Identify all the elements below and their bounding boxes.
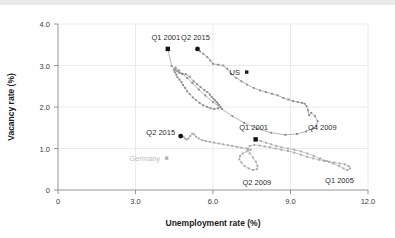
- data-point: [212, 101, 214, 103]
- data-point: [217, 107, 219, 109]
- data-point: [198, 138, 200, 140]
- data-point: [275, 148, 277, 150]
- data-point: [184, 138, 186, 140]
- data-point: [265, 142, 267, 144]
- data-point: [231, 145, 233, 147]
- data-point: [175, 74, 177, 76]
- data-point: [203, 89, 205, 91]
- data-point: [211, 96, 213, 98]
- series-germany: [180, 133, 351, 171]
- data-point: [189, 93, 191, 95]
- y-tick-label: 1.0: [40, 145, 50, 154]
- data-point: [293, 152, 295, 154]
- data-point: [209, 107, 211, 109]
- data-point: [306, 153, 308, 155]
- data-point: [226, 68, 228, 70]
- data-point: [178, 79, 180, 81]
- data-point: [175, 67, 177, 69]
- data-point: [184, 87, 186, 89]
- data-point: [198, 89, 200, 91]
- data-point: [191, 82, 193, 84]
- data-point: [249, 145, 251, 147]
- data-point: [306, 156, 308, 158]
- beveridge-curve-chart: Q1 2001Q2 2015Q4 2009Q1 2001Q2 2015Q2 20…: [0, 0, 395, 238]
- data-point: [287, 99, 289, 101]
- annotation-label: Q2 2015: [146, 128, 175, 137]
- annotation-layer: Q1 2001Q2 2015Q4 2009Q1 2001Q2 2015Q2 20…: [146, 33, 354, 187]
- series-line: [181, 134, 350, 171]
- data-point: [260, 140, 262, 142]
- data-point: [344, 163, 346, 165]
- data-point: [200, 86, 202, 88]
- legend-marker-us: [245, 70, 248, 73]
- y-tick-label: 0: [46, 186, 50, 195]
- data-point: [174, 71, 176, 73]
- data-point: [259, 145, 261, 147]
- data-point: [265, 91, 267, 93]
- data-point: [301, 102, 303, 104]
- data-point: [312, 158, 314, 160]
- data-point: [256, 168, 258, 170]
- data-point: [297, 101, 299, 103]
- data-point: [192, 97, 194, 99]
- data-point: [310, 112, 312, 114]
- data-point: [253, 144, 255, 146]
- y-tick-label: 3.0: [40, 62, 50, 71]
- data-point: [175, 69, 177, 71]
- data-point: [246, 150, 248, 152]
- series-line: [168, 49, 318, 135]
- data-point: [252, 157, 254, 159]
- data-point: [201, 139, 203, 141]
- data-point: [222, 65, 224, 67]
- data-point: [186, 90, 188, 92]
- data-point: [235, 77, 237, 79]
- data-point: [346, 169, 348, 171]
- annotation-marker-square: [166, 47, 170, 51]
- data-point: [343, 167, 345, 169]
- data-point: [284, 134, 286, 136]
- data-point: [242, 153, 244, 155]
- data-point: [227, 144, 229, 146]
- legend-label-us: US: [230, 68, 240, 77]
- data-point: [204, 94, 206, 96]
- data-point: [178, 70, 180, 72]
- data-point: [270, 132, 272, 134]
- data-point: [304, 103, 306, 105]
- data-point: [292, 100, 294, 102]
- data-point: [217, 64, 219, 66]
- data-point: [318, 159, 320, 161]
- data-point: [213, 142, 215, 144]
- annotation-label: Q2 2009: [243, 178, 272, 187]
- data-point: [191, 133, 193, 135]
- data-series-layer: [167, 48, 351, 171]
- data-point: [220, 106, 222, 108]
- data-point: [240, 147, 242, 149]
- data-point: [206, 106, 208, 108]
- data-point: [271, 93, 273, 95]
- data-point: [182, 84, 184, 86]
- data-point: [171, 65, 173, 67]
- annotation-label: Q4 2009: [308, 123, 337, 132]
- data-point: [206, 91, 208, 93]
- legend-label-germany: Germany: [129, 154, 160, 163]
- data-point: [209, 60, 211, 62]
- data-point: [246, 84, 248, 86]
- data-point: [244, 165, 246, 167]
- annotation-marker-circle: [178, 134, 183, 139]
- data-point: [239, 155, 241, 157]
- data-point: [296, 133, 298, 135]
- data-point: [193, 133, 195, 135]
- x-axis-title: Unemployment rate (%): [166, 218, 261, 228]
- data-point: [195, 136, 197, 138]
- data-point: [293, 149, 295, 151]
- data-point: [213, 98, 215, 100]
- data-point: [281, 146, 283, 148]
- data-point: [202, 104, 204, 106]
- data-point: [181, 81, 183, 83]
- y-tick-label: 2.0: [40, 103, 50, 112]
- x-tick-label: 3.0: [130, 197, 140, 206]
- annotation-label: Q1 2001: [239, 123, 268, 132]
- data-point: [213, 108, 215, 110]
- data-point: [323, 160, 325, 162]
- annotation-label: Q1 2005: [325, 176, 354, 185]
